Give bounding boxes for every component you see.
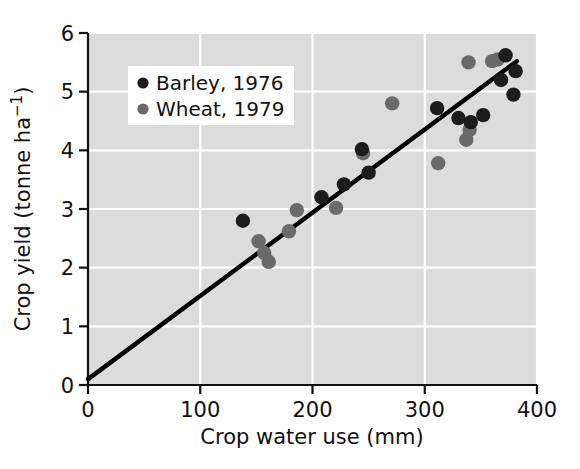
data-point	[494, 73, 508, 87]
data-point	[385, 96, 399, 110]
x-tick-label: 400	[517, 398, 557, 422]
data-point	[431, 156, 445, 170]
data-point	[236, 214, 250, 228]
y-tick-label: 1	[61, 315, 74, 339]
legend-marker-wheat	[137, 103, 148, 114]
legend-marker-barley	[137, 77, 148, 88]
x-tick-label: 300	[405, 398, 445, 422]
y-axis-title-main: Crop yield (tonne ha	[11, 117, 35, 331]
data-point	[290, 203, 304, 217]
x-tick-label: 0	[81, 398, 94, 422]
y-axis-tick-labels: 0123456	[61, 22, 74, 398]
data-point	[355, 142, 369, 156]
y-tick-label: 4	[61, 139, 74, 163]
chart-figure: 0123456 0100200300400 Barley, 1976 Wheat…	[0, 0, 580, 469]
svg-text:Crop yield (tonne ha−1): Crop yield (tonne ha−1)	[8, 87, 35, 332]
x-axis-title: Crop water use (mm)	[200, 425, 423, 449]
y-tick-label: 6	[61, 22, 74, 46]
y-tick-label: 2	[61, 256, 74, 280]
x-axis-tick-labels: 0100200300400	[81, 398, 557, 422]
x-tick-label: 100	[180, 398, 220, 422]
data-point	[461, 55, 475, 69]
chart-legend: Barley, 1976 Wheat, 1979	[128, 66, 294, 125]
scatter-plot-svg: 0123456 0100200300400 Barley, 1976 Wheat…	[0, 0, 580, 469]
data-point	[337, 177, 351, 191]
y-axis-title-exponent: −1	[8, 95, 26, 117]
data-point	[508, 64, 522, 78]
x-tick-label: 200	[292, 398, 332, 422]
legend-label-wheat: Wheat, 1979	[156, 97, 284, 121]
y-tick-label: 3	[61, 198, 74, 222]
y-axis-title: Crop yield (tonne ha−1)	[8, 87, 35, 332]
data-point	[329, 201, 343, 215]
data-point	[476, 108, 490, 122]
data-point	[498, 48, 512, 62]
data-point	[506, 87, 520, 101]
data-point	[451, 111, 465, 125]
y-tick-label: 5	[61, 80, 74, 104]
data-point	[314, 190, 328, 204]
x-axis-ticks	[88, 385, 537, 394]
data-point	[282, 224, 296, 238]
legend-label-barley: Barley, 1976	[156, 71, 284, 95]
data-point	[361, 165, 375, 179]
data-point	[464, 115, 478, 129]
data-point	[430, 101, 444, 115]
y-axis-title-close: )	[11, 87, 35, 95]
data-point	[262, 255, 276, 269]
y-axis-ticks	[79, 33, 88, 385]
y-tick-label: 0	[61, 374, 74, 398]
